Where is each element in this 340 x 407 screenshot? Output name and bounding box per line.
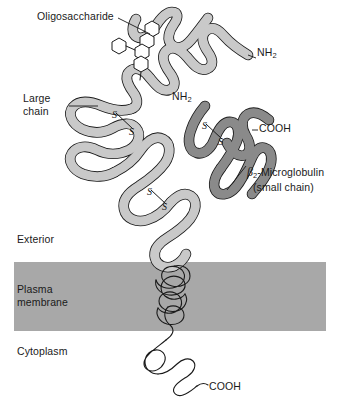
label-plasma-membrane-line2: membrane (17, 296, 68, 309)
disulfide-bond-large-chain-lower: S S (147, 186, 167, 212)
svg-text:S: S (162, 201, 167, 212)
svg-text:S: S (129, 126, 134, 137)
label-exterior: Exterior (17, 233, 54, 246)
nh2-mid-text: NH (172, 90, 187, 102)
label-plasma-membrane-line1: Plasma (17, 283, 53, 296)
nh2-top-subscript: 2 (272, 51, 276, 60)
svg-text:S: S (202, 120, 207, 131)
label-large-chain-line1: Large (23, 92, 50, 105)
label-oligosaccharide: Oligosaccharide (37, 10, 114, 23)
label-cooh-cytoplasm: COOH (209, 380, 241, 393)
label-large-chain-line2: chain (23, 105, 49, 118)
svg-text:S: S (112, 109, 117, 120)
nh2-mid-subscript: 2 (187, 95, 191, 104)
label-beta2-microglobulin: β2-Microglobulin (247, 166, 324, 182)
label-cytoplasm: Cytoplasm (17, 345, 68, 358)
svg-text:S: S (218, 136, 223, 147)
svg-text:S: S (147, 186, 152, 197)
nh2-top-text: NH (257, 46, 272, 58)
cytoplasmic-tail (144, 340, 208, 396)
label-cooh-small-chain: COOH (259, 122, 291, 135)
label-small-chain-parenthetical: (small chain) (253, 181, 314, 194)
label-nh2-top: NH2 (257, 46, 277, 62)
mhc-class-i-diagram: .ribbonLight { fill: none; stroke: #c9c9… (0, 0, 340, 407)
label-nh2-mid: NH2 (172, 90, 192, 106)
microglobulin-text: -Microglobulin (257, 166, 324, 178)
